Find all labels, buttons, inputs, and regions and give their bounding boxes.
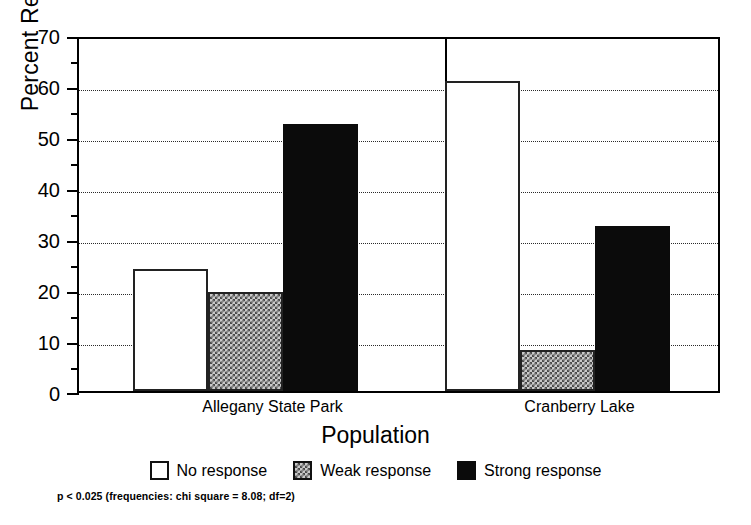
bar-cranberry-weak-response [520,350,595,391]
bar-allegany-strong-response [283,124,358,391]
bar-allegany-weak-response [208,292,283,391]
x-tick-label-cranberry-lake: Cranberry Lake [472,398,687,416]
bar-chart-figure: Percent Response 70 60 50 40 30 20 10 0 [0,0,751,525]
chart-legend: No response Weak response Strong respons… [0,461,751,480]
bar-allegany-no-response [133,269,208,391]
legend-label-strong-response: Strong response [484,462,601,480]
legend-swatch-weak-response-icon [293,461,312,480]
gridline-40 [79,192,718,193]
y-tick-label-50: 50 [8,129,60,149]
legend-item-strong-response: Strong response [457,461,601,480]
y-tick-label-20: 20 [8,282,60,302]
legend-item-weak-response: Weak response [293,461,431,480]
y-tick-label-10: 10 [8,333,60,353]
y-axis-title: Percent Response [10,0,50,135]
gridline-50 [79,141,718,142]
x-axis-title: Population [0,422,751,449]
gridline-60 [79,90,718,91]
y-tick-label-40: 40 [8,180,60,200]
y-tick-label-70: 70 [8,27,60,47]
legend-swatch-no-response-icon [150,461,169,480]
legend-swatch-strong-response-icon [457,461,476,480]
y-tick-label-0: 0 [8,384,60,404]
y-tick-label-60: 60 [8,78,60,98]
legend-item-no-response: No response [150,461,268,480]
x-tick-label-allegany-state-park: Allegany State Park [165,398,380,416]
y-tick-major-0 [67,393,79,395]
statistics-annotation: p < 0.025 (frequencies: chi square = 8.0… [57,490,295,502]
legend-label-weak-response: Weak response [320,462,431,480]
plot-area [77,37,720,393]
y-tick-label-30: 30 [8,231,60,251]
bar-cranberry-no-response [445,81,520,391]
bar-cranberry-strong-response [595,226,670,391]
legend-label-no-response: No response [177,462,268,480]
